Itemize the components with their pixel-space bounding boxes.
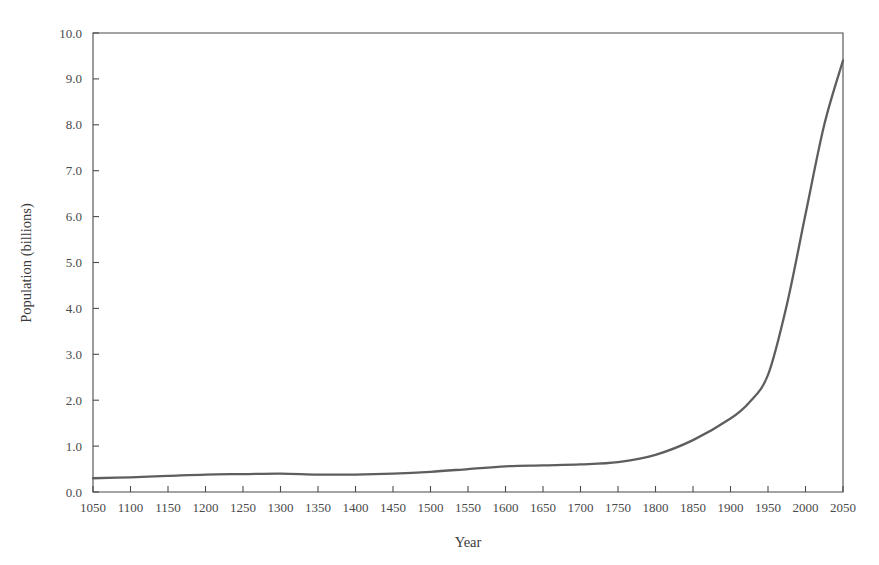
x-tick-label: 1550 <box>455 500 481 515</box>
x-tick-label: 1900 <box>718 500 744 515</box>
x-tick-label: 1400 <box>343 500 369 515</box>
x-tick-label: 1100 <box>118 500 144 515</box>
x-tick-label: 1700 <box>568 500 594 515</box>
chart-figure: 1050110011501200125013001350140014501500… <box>0 0 879 565</box>
x-tick-label: 1450 <box>380 500 406 515</box>
x-axis-title: Year <box>455 534 482 550</box>
x-tick-label: 1200 <box>193 500 219 515</box>
y-axis-tick-labels: 0.01.02.03.04.05.06.07.08.09.010.0 <box>59 26 82 500</box>
y-tick-label: 4.0 <box>66 301 82 316</box>
x-tick-label: 2050 <box>830 500 856 515</box>
y-tick-label: 6.0 <box>66 209 82 224</box>
x-axis-tick-labels: 1050110011501200125013001350140014501500… <box>80 500 856 515</box>
x-tick-label: 1050 <box>80 500 106 515</box>
population-series-line <box>93 61 843 479</box>
x-tick-label: 1150 <box>155 500 181 515</box>
x-tick-label: 2000 <box>793 500 819 515</box>
x-tick-label: 1250 <box>230 500 256 515</box>
x-tick-label: 1750 <box>605 500 631 515</box>
y-tick-label: 1.0 <box>66 439 82 454</box>
y-tick-label: 2.0 <box>66 393 82 408</box>
x-axis-ticks <box>93 486 843 492</box>
y-tick-label: 8.0 <box>66 117 82 132</box>
x-tick-label: 1350 <box>305 500 331 515</box>
x-tick-label: 1500 <box>418 500 444 515</box>
y-axis-ticks <box>93 33 99 492</box>
x-tick-label: 1800 <box>643 500 669 515</box>
y-tick-label: 5.0 <box>66 255 82 270</box>
plot-axes-frame <box>93 33 843 492</box>
y-tick-label: 7.0 <box>66 163 82 178</box>
y-tick-label: 0.0 <box>66 485 82 500</box>
y-tick-label: 3.0 <box>66 347 82 362</box>
x-tick-label: 1850 <box>680 500 706 515</box>
population-line-chart: 1050110011501200125013001350140014501500… <box>0 0 879 565</box>
y-axis-title: Population (billions) <box>18 203 35 323</box>
x-tick-label: 1950 <box>755 500 781 515</box>
x-tick-label: 1300 <box>268 500 294 515</box>
x-tick-label: 1650 <box>530 500 556 515</box>
y-tick-label: 10.0 <box>59 26 82 41</box>
x-tick-label: 1600 <box>493 500 519 515</box>
y-tick-label: 9.0 <box>66 71 82 86</box>
